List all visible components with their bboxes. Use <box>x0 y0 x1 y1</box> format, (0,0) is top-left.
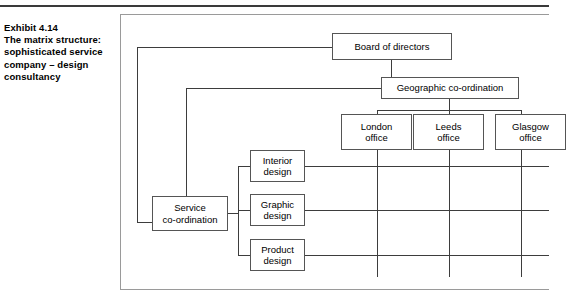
node-board-of-directors[interactable]: Board of directors <box>332 33 452 60</box>
node-product-design-label-1: Product <box>261 244 294 256</box>
node-graphic-design[interactable]: Graphic design <box>250 194 305 226</box>
node-leeds-office-label-2: office <box>437 132 460 144</box>
matrix-row-interior <box>305 166 549 167</box>
exhibit-title-line-2: sophisticated service <box>4 46 116 58</box>
top-divider-rule <box>0 5 549 7</box>
edge-board-geographic <box>391 60 392 77</box>
node-service-coordination[interactable]: Service co-ordination <box>152 196 228 231</box>
matrix-row-graphic <box>305 210 549 211</box>
matrix-column-london <box>377 150 378 277</box>
node-glasgow-office[interactable]: Glasgow office <box>495 114 566 150</box>
node-board-of-directors-label: Board of directors <box>355 41 430 53</box>
node-london-office-label-1: London <box>361 121 393 133</box>
node-service-coordination-label-1: Service <box>174 202 206 214</box>
node-geographic-coordination-label: Geographic co-ordination <box>397 82 504 94</box>
node-glasgow-office-label-1: Glasgow <box>512 121 549 133</box>
exhibit-number: Exhibit 4.14 <box>4 22 116 34</box>
edge-board-left-horizontal <box>137 47 332 48</box>
exhibit-title-line-4: consultancy <box>4 71 116 83</box>
node-graphic-design-label-1: Graphic <box>261 199 294 211</box>
node-london-office-label-2: office <box>365 132 388 144</box>
node-graphic-design-label-2: design <box>264 210 292 222</box>
node-service-coordination-label-2: co-ordination <box>163 214 218 226</box>
node-interior-design-label-1: Interior <box>263 155 293 167</box>
edge-design-bracket-vertical <box>238 166 239 256</box>
matrix-row-product <box>305 255 549 256</box>
exhibit-title-line-1: The matrix structure: <box>4 34 116 46</box>
edge-board-left-vertical <box>137 47 138 222</box>
exhibit-title-line-3: company – design <box>4 59 116 71</box>
node-product-design[interactable]: Product design <box>250 239 305 271</box>
edge-board-service-stub <box>137 222 153 223</box>
node-product-design-label-2: design <box>264 255 292 267</box>
node-interior-design[interactable]: Interior design <box>250 150 305 182</box>
node-interior-design-label-2: design <box>264 166 292 178</box>
matrix-column-glasgow <box>521 150 522 277</box>
edge-geographic-left-vertical <box>186 88 187 196</box>
node-leeds-office-label-1: Leeds <box>436 121 462 133</box>
exhibit-caption: Exhibit 4.14 The matrix structure: sophi… <box>4 22 116 83</box>
node-geographic-coordination[interactable]: Geographic co-ordination <box>381 77 519 99</box>
node-glasgow-office-label-2: office <box>519 132 542 144</box>
matrix-column-leeds <box>449 150 450 277</box>
edge-geographic-bus-drop <box>449 99 450 110</box>
edge-geographic-left-horizontal <box>186 88 381 89</box>
node-leeds-office[interactable]: Leeds office <box>413 114 484 150</box>
node-london-office[interactable]: London office <box>341 114 412 150</box>
